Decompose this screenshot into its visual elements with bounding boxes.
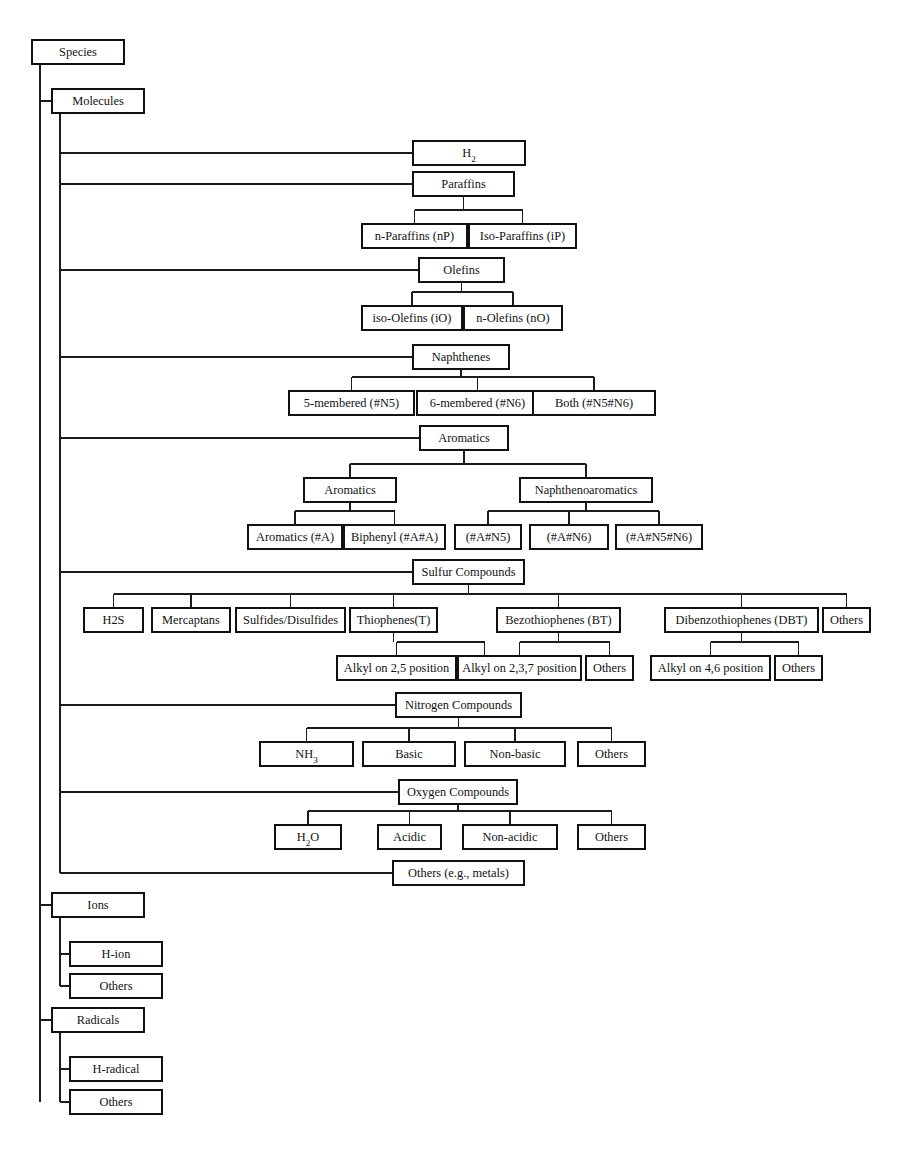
node-label-sulfides: Sulfides/Disulfides	[243, 613, 338, 627]
node-label-bt_others: Others	[593, 661, 626, 675]
node-sulfur_others[interactable]: Others	[823, 608, 870, 632]
node-molecules[interactable]: Molecules	[52, 89, 144, 113]
node-ion_others[interactable]: Others	[70, 974, 162, 998]
node-aromatics_mid[interactable]: Aromatics	[304, 478, 396, 502]
node-label-radicals: Radicals	[77, 1013, 120, 1027]
node-sulfur[interactable]: Sulfur Compounds	[413, 560, 524, 584]
node-label-nonacidic: Non-acidic	[482, 830, 538, 844]
node-label-basic: Basic	[395, 747, 423, 761]
node-a_n6[interactable]: (#A#N6)	[530, 525, 608, 549]
node-species[interactable]: Species	[32, 40, 124, 64]
node-n5[interactable]: 5-membered (#N5)	[289, 391, 414, 415]
node-label-dbt: Dibenzothiophenes (DBT)	[676, 613, 808, 627]
node-label-h_ion: H-ion	[102, 947, 131, 961]
node-label-molecules: Molecules	[72, 94, 124, 108]
node-label-mercaptans: Mercaptans	[162, 613, 220, 627]
node-label-alkyl25: Alkyl on 2,5 position	[344, 661, 449, 675]
node-basic[interactable]: Basic	[363, 742, 455, 766]
node-label-h2s: H2S	[102, 613, 124, 627]
node-radicals[interactable]: Radicals	[52, 1008, 144, 1032]
node-label-ions: Ions	[87, 898, 109, 912]
node-bt_others[interactable]: Others	[586, 656, 633, 680]
node-naphthenes[interactable]: Naphthenes	[413, 345, 509, 369]
node-label-n5: 5-membered (#N5)	[304, 396, 399, 410]
node-mercaptans[interactable]: Mercaptans	[152, 608, 230, 632]
node-label-dbt_others: Others	[782, 661, 815, 675]
species-hierarchy-diagram: SpeciesMoleculesH2Paraffinsn-Paraffins (…	[0, 0, 904, 1153]
node-ions[interactable]: Ions	[52, 893, 144, 917]
node-h2o[interactable]: H2O	[275, 825, 341, 849]
node-label-metals: Others (e.g., metals)	[408, 866, 509, 880]
node-biphenyl[interactable]: Biphenyl (#A#A)	[344, 525, 445, 549]
node-h2s[interactable]: H2S	[84, 608, 143, 632]
node-h_ion[interactable]: H-ion	[70, 942, 162, 966]
node-label-n_others: Others	[595, 747, 628, 761]
node-label-nitrogen: Nitrogen Compounds	[405, 698, 512, 712]
node-a_n5_n6[interactable]: (#A#N5#N6)	[616, 525, 702, 549]
node-metals[interactable]: Others (e.g., metals)	[393, 861, 524, 885]
node-label-a_n6: (#A#N6)	[547, 530, 592, 544]
node-alkyl25[interactable]: Alkyl on 2,5 position	[337, 656, 456, 680]
node-label-o_others: Others	[595, 830, 628, 844]
node-label-species: Species	[59, 45, 97, 59]
node-bt[interactable]: Bezothiophenes (BT)	[497, 608, 620, 632]
node-iso_olefins[interactable]: iso-Olefins (iO)	[362, 306, 462, 330]
node-alkyl46[interactable]: Alkyl on 4,6 position	[651, 656, 770, 680]
node-h2[interactable]: H2	[413, 141, 525, 165]
node-a_n5[interactable]: (#A#N5)	[455, 525, 521, 549]
node-label-n6: 6-membered (#N6)	[430, 396, 525, 410]
node-dbt[interactable]: Dibenzothiophenes (DBT)	[665, 608, 818, 632]
node-label-naphthenes: Naphthenes	[432, 350, 491, 364]
node-label-aromatics_mid: Aromatics	[324, 483, 376, 497]
node-paraffins[interactable]: Paraffins	[413, 172, 514, 196]
node-o_others[interactable]: Others	[578, 825, 645, 849]
node-label-biphenyl: Biphenyl (#A#A)	[351, 530, 438, 544]
node-label-sulfur: Sulfur Compounds	[422, 565, 516, 579]
node-label-iso_paraffins: Iso-Paraffins (iP)	[480, 229, 565, 243]
node-olefins[interactable]: Olefins	[419, 258, 504, 282]
node-dbt_others[interactable]: Others	[775, 656, 822, 680]
node-nh3[interactable]: NH3	[260, 742, 353, 766]
node-label-olefins: Olefins	[443, 263, 480, 277]
node-n_others[interactable]: Others	[578, 742, 645, 766]
node-label-ion_others: Others	[99, 979, 132, 993]
node-label-n_paraffins: n-Paraffins (nP)	[375, 229, 454, 243]
node-nitrogen[interactable]: Nitrogen Compounds	[396, 693, 521, 717]
node-label-oxygen: Oxygen Compounds	[407, 785, 509, 799]
node-iso_paraffins[interactable]: Iso-Paraffins (iP)	[469, 224, 576, 248]
node-label-n_olefins: n-Olefins (nO)	[476, 311, 549, 325]
node-n_paraffins[interactable]: n-Paraffins (nP)	[362, 224, 467, 248]
node-thiophenes[interactable]: Thiophenes(T)	[350, 608, 437, 632]
node-label-rad_others: Others	[99, 1095, 132, 1109]
node-label-paraffins: Paraffins	[441, 177, 486, 191]
node-n6[interactable]: 6-membered (#N6)	[417, 391, 538, 415]
node-rad_others[interactable]: Others	[70, 1090, 162, 1114]
node-alkyl237[interactable]: Alkyl on 2,3,7 position	[458, 656, 581, 680]
node-oxygen[interactable]: Oxygen Compounds	[399, 780, 517, 804]
node-n5n6[interactable]: Both (#N5#N6)	[533, 391, 655, 415]
node-acidic[interactable]: Acidic	[378, 825, 441, 849]
node-label-arom_a: Aromatics (#A)	[256, 530, 334, 544]
node-sulfides[interactable]: Sulfides/Disulfides	[236, 608, 345, 632]
node-n_olefins[interactable]: n-Olefins (nO)	[464, 306, 562, 330]
node-label-h_radical: H-radical	[93, 1062, 140, 1076]
node-h_radical[interactable]: H-radical	[70, 1057, 162, 1081]
node-label-n5n6: Both (#N5#N6)	[555, 396, 633, 410]
tree-canvas: SpeciesMoleculesH2Paraffinsn-Paraffins (…	[0, 0, 904, 1153]
node-label-nonbasic: Non-basic	[490, 747, 541, 761]
node-label-thiophenes: Thiophenes(T)	[357, 613, 431, 627]
node-label-acidic: Acidic	[393, 830, 427, 844]
node-label-sulfur_others: Others	[830, 613, 863, 627]
node-label-bt: Bezothiophenes (BT)	[505, 613, 611, 627]
node-naphthenoarom[interactable]: Naphthenoaromatics	[520, 478, 652, 502]
node-nonacidic[interactable]: Non-acidic	[463, 825, 557, 849]
node-nonbasic[interactable]: Non-basic	[465, 742, 565, 766]
node-boxes: SpeciesMoleculesH2Paraffinsn-Paraffins (…	[32, 40, 870, 1114]
node-label-a_n5_n6: (#A#N5#N6)	[626, 530, 692, 544]
node-arom_a[interactable]: Aromatics (#A)	[248, 525, 342, 549]
node-label-a_n5: (#A#N5)	[466, 530, 511, 544]
node-label-alkyl237: Alkyl on 2,3,7 position	[462, 661, 577, 675]
node-label-naphthenoarom: Naphthenoaromatics	[535, 483, 638, 497]
node-aromatics_top[interactable]: Aromatics	[420, 426, 508, 450]
node-label-alkyl46: Alkyl on 4,6 position	[658, 661, 763, 675]
